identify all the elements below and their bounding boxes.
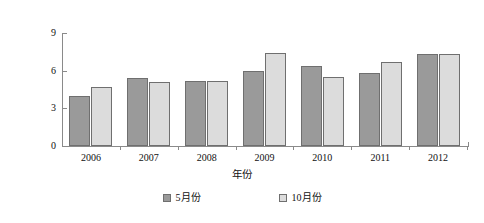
y-axis-tick-label-text: 0 bbox=[38, 141, 56, 151]
bar-2007-10月份 bbox=[149, 82, 170, 146]
x-axis-category-label: 2006 bbox=[66, 152, 116, 164]
legend-item-5月份[interactable]: 5月份 bbox=[163, 192, 201, 204]
groundwater-no3n-bar-chart: 地下水NO3-N平均含量（mg/L） 0369 2006200720082009… bbox=[0, 0, 484, 223]
bar-2008-10月份 bbox=[207, 81, 228, 146]
bar-2009-10月份 bbox=[265, 53, 286, 146]
x-axis-tick bbox=[293, 146, 294, 150]
x-axis-title: 年份 bbox=[0, 168, 484, 181]
legend-swatch-icon bbox=[279, 194, 287, 202]
bar-2012-5月份 bbox=[417, 54, 438, 146]
x-axis-category-label: 2010 bbox=[297, 152, 347, 164]
bar-2007-5月份 bbox=[127, 78, 148, 146]
bar-2012-10月份 bbox=[439, 54, 460, 146]
legend-label: 10月份 bbox=[292, 192, 322, 204]
y-axis-tick-label-text: 9 bbox=[38, 28, 56, 38]
legend-swatch-icon bbox=[163, 194, 171, 202]
y-axis-tick-label-text: 6 bbox=[38, 66, 56, 76]
x-axis-tick bbox=[236, 146, 237, 150]
bar-2009-5月份 bbox=[243, 71, 264, 146]
y-axis-tick-label-text: 3 bbox=[38, 103, 56, 113]
bar-2008-5月份 bbox=[185, 81, 206, 146]
x-axis-tick bbox=[120, 146, 121, 150]
x-axis-category-label: 2012 bbox=[413, 152, 463, 164]
y-axis-tick-label: 6 bbox=[38, 66, 56, 76]
bar-2011-5月份 bbox=[359, 73, 380, 146]
y-axis-tick-label: 3 bbox=[38, 103, 56, 113]
bar-2010-5月份 bbox=[301, 66, 322, 146]
x-axis-tick bbox=[409, 146, 410, 150]
y-axis-tick bbox=[62, 146, 67, 147]
bar-2006-10月份 bbox=[91, 87, 112, 146]
y-axis-tick-label: 0 bbox=[38, 141, 56, 151]
bar-2011-10月份 bbox=[381, 62, 402, 146]
x-axis-tick bbox=[178, 146, 179, 150]
plot-area bbox=[62, 33, 467, 146]
y-axis-tick-label: 9 bbox=[38, 28, 56, 38]
chart-legend: 5月份10月份 bbox=[0, 192, 484, 204]
legend-item-10月份[interactable]: 10月份 bbox=[279, 192, 322, 204]
x-axis-category-label: 2007 bbox=[124, 152, 174, 164]
x-axis-line bbox=[62, 146, 469, 147]
x-axis-category-label: 2011 bbox=[355, 152, 405, 164]
x-axis-tick bbox=[467, 146, 468, 150]
bar-2006-5月份 bbox=[69, 96, 90, 146]
bar-2010-10月份 bbox=[323, 77, 344, 146]
x-axis-category-label: 2009 bbox=[240, 152, 290, 164]
x-axis-tick bbox=[351, 146, 352, 150]
x-axis-end-cap bbox=[468, 142, 469, 147]
x-axis-category-label: 2008 bbox=[182, 152, 232, 164]
legend-label: 5月份 bbox=[176, 192, 201, 204]
